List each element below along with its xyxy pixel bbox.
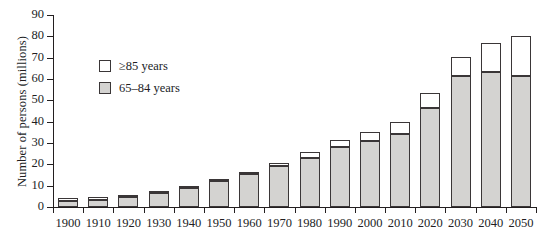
y-tick: 70 bbox=[47, 58, 53, 59]
bar-segment-65-84 bbox=[88, 200, 108, 207]
legend-label-65-84: 65–84 years bbox=[119, 81, 180, 96]
bar-2020 bbox=[420, 93, 440, 207]
y-tick: 90 bbox=[47, 15, 53, 16]
x-tick bbox=[144, 207, 145, 213]
bar-1950 bbox=[209, 180, 229, 207]
bar-segment-85-plus bbox=[239, 172, 259, 174]
bar-segment-65-84 bbox=[149, 193, 169, 207]
x-tick bbox=[355, 207, 356, 213]
legend-swatch-65-84-icon bbox=[99, 82, 111, 94]
x-tick bbox=[385, 207, 386, 213]
bar-2050 bbox=[511, 36, 531, 207]
x-tick bbox=[415, 207, 416, 213]
x-tick bbox=[325, 207, 326, 213]
bar-1900 bbox=[58, 200, 78, 207]
y-tick-label: 90 bbox=[32, 7, 45, 22]
x-tick bbox=[295, 207, 296, 213]
x-tick-label: 1940 bbox=[174, 216, 204, 231]
bar-segment-65-84 bbox=[420, 108, 440, 207]
y-tick: 10 bbox=[47, 186, 53, 187]
bar-segment-85-plus bbox=[420, 93, 440, 108]
bar-segment-85-plus bbox=[300, 152, 320, 157]
x-tick-label: 2040 bbox=[476, 216, 506, 231]
bar-segment-65-84 bbox=[390, 134, 410, 207]
bar-1990 bbox=[330, 140, 350, 207]
x-tick-label: 2020 bbox=[415, 216, 445, 231]
x-tick-label: 2030 bbox=[445, 216, 475, 231]
bar-segment-85-plus bbox=[118, 195, 138, 197]
legend-item-65-84: 65–84 years bbox=[99, 77, 180, 99]
y-axis-title: Number of persons (millions) bbox=[15, 12, 30, 212]
bar-1960 bbox=[239, 172, 259, 207]
bar-segment-65-84 bbox=[360, 141, 380, 207]
x-tick bbox=[476, 207, 477, 213]
x-tick bbox=[506, 207, 507, 213]
x-tick bbox=[113, 207, 114, 213]
bar-segment-65-84 bbox=[330, 147, 350, 207]
y-tick-label: 80 bbox=[32, 28, 45, 43]
bar-1920 bbox=[118, 196, 138, 207]
bar-segment-85-plus bbox=[88, 197, 108, 199]
x-tick bbox=[536, 207, 537, 213]
y-tick-label: 0 bbox=[38, 199, 44, 214]
bar-2030 bbox=[451, 57, 471, 207]
bar-1910 bbox=[88, 199, 108, 207]
legend-swatch-85-plus-icon bbox=[99, 60, 111, 72]
y-tick-label: 20 bbox=[32, 156, 45, 171]
bar-segment-65-84 bbox=[179, 188, 199, 207]
x-tick-label: 1990 bbox=[325, 216, 355, 231]
x-tick-label: 1930 bbox=[144, 216, 174, 231]
x-tick bbox=[234, 207, 235, 213]
legend-label-85-plus: ≥85 years bbox=[119, 59, 168, 74]
bar-segment-85-plus bbox=[179, 186, 199, 188]
x-tick bbox=[83, 207, 84, 213]
bar-segment-65-84 bbox=[511, 76, 531, 207]
plot-area: 0102030405060708090 19001910192019301940… bbox=[53, 15, 536, 207]
bar-segment-65-84 bbox=[451, 76, 471, 207]
x-tick bbox=[445, 207, 446, 213]
x-tick-label: 1910 bbox=[83, 216, 113, 231]
bar-2040 bbox=[481, 43, 501, 207]
y-tick-label: 70 bbox=[32, 50, 45, 65]
x-tick bbox=[204, 207, 205, 213]
y-tick-label: 60 bbox=[32, 71, 45, 86]
y-tick-label: 40 bbox=[32, 114, 45, 129]
bar-segment-85-plus bbox=[330, 140, 350, 146]
bar-2000 bbox=[360, 132, 380, 207]
legend: ≥85 years 65–84 years bbox=[99, 55, 180, 99]
bar-1930 bbox=[149, 193, 169, 208]
bar-segment-85-plus bbox=[149, 191, 169, 193]
x-tick-label: 1950 bbox=[204, 216, 234, 231]
bar-1940 bbox=[179, 187, 199, 207]
bar-segment-65-84 bbox=[58, 201, 78, 207]
legend-item-85-plus: ≥85 years bbox=[99, 55, 180, 77]
bar-segment-65-84 bbox=[269, 166, 289, 207]
y-tick: 40 bbox=[47, 122, 53, 123]
y-tick-label: 50 bbox=[32, 92, 45, 107]
y-tick: 20 bbox=[47, 164, 53, 165]
bar-segment-85-plus bbox=[58, 198, 78, 200]
x-tick-label: 1970 bbox=[264, 216, 294, 231]
y-tick: 50 bbox=[47, 100, 53, 101]
bar-segment-65-84 bbox=[300, 158, 320, 207]
bar-segment-85-plus bbox=[390, 122, 410, 134]
y-tick: 30 bbox=[47, 143, 53, 144]
y-tick: 80 bbox=[47, 36, 53, 37]
x-tick-label: 1900 bbox=[53, 216, 83, 231]
bar-segment-65-84 bbox=[239, 174, 259, 207]
x-tick-label: 2050 bbox=[506, 216, 536, 231]
x-tick-label: 2000 bbox=[355, 216, 385, 231]
bar-segment-85-plus bbox=[451, 57, 471, 76]
bar-2010 bbox=[390, 122, 410, 207]
bar-1980 bbox=[300, 152, 320, 207]
bar-segment-85-plus bbox=[360, 132, 380, 141]
bar-segment-65-84 bbox=[118, 197, 138, 207]
stacked-bar-chart: Number of persons (millions) 01020304050… bbox=[0, 0, 546, 245]
y-axis-line bbox=[53, 15, 54, 207]
x-tick-label: 1960 bbox=[234, 216, 264, 231]
y-tick-label: 30 bbox=[32, 135, 45, 150]
y-tick: 60 bbox=[47, 79, 53, 80]
x-tick bbox=[174, 207, 175, 213]
bar-segment-85-plus bbox=[269, 163, 289, 166]
bar-segment-65-84 bbox=[481, 72, 501, 207]
